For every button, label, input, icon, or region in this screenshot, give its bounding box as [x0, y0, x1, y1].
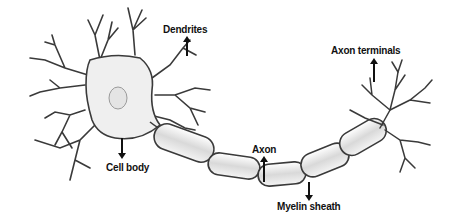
axon-terminals-icon — [350, 60, 432, 172]
arrow-down-icon — [304, 182, 314, 202]
arrow-up-icon — [259, 156, 269, 182]
arrow-up-icon — [182, 36, 192, 56]
arrow-up-icon — [369, 58, 379, 82]
nucleus-icon — [109, 87, 127, 109]
label-dendrites: Dendrites — [163, 24, 207, 35]
arrow-down-icon — [117, 138, 127, 160]
label-axon: Axon — [252, 144, 276, 155]
neuron-illustration — [0, 0, 460, 223]
neuron-diagram: Dendrites Axon terminals Cell body Axon … — [0, 0, 460, 223]
label-myelin-sheath: Myelin sheath — [277, 201, 341, 212]
label-cell-body: Cell body — [106, 162, 149, 173]
label-axon-terminals: Axon terminals — [331, 45, 400, 56]
